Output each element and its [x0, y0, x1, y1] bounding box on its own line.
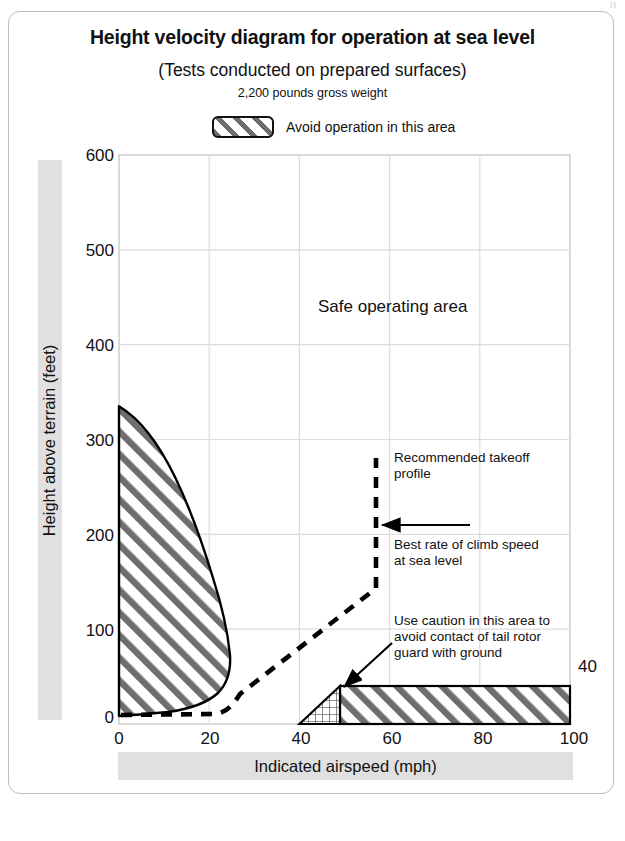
takeoff-profile-line-1: Recommended takeoff: [394, 450, 594, 466]
caution-line-3: guard with ground: [394, 645, 604, 661]
caution-line-2: avoid contact of tail rotor: [394, 629, 604, 645]
best-rate-line-1: Best rate of climb speed: [394, 537, 594, 553]
best-rate-of-climb-annotation: Best rate of climb speed at sea level: [394, 537, 594, 569]
page-root: II Height velocity diagram for operation…: [0, 0, 625, 841]
safe-operating-area-label: Safe operating area: [318, 297, 467, 317]
caution-area-annotation: Use caution in this area to avoid contac…: [394, 613, 604, 661]
caution-area-bar: [340, 686, 570, 724]
chart-plot: [0, 0, 625, 841]
recommended-takeoff-profile-annotation: Recommended takeoff profile: [394, 450, 594, 482]
best-rate-line-2: at sea level: [394, 553, 594, 569]
takeoff-profile-line-2: profile: [394, 466, 594, 482]
edge-value-40: 40: [578, 657, 597, 677]
caution-line-1: Use caution in this area to: [394, 613, 604, 629]
